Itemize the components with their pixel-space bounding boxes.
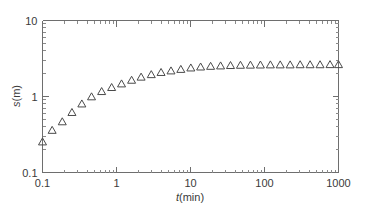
x-tick-label: 1000 — [326, 177, 350, 189]
x-tick-label: 10 — [184, 177, 196, 189]
chart-background — [0, 0, 365, 215]
x-axis-title: t(min) — [176, 191, 204, 203]
x-tick-label: 1 — [113, 177, 119, 189]
svg-text:t(min): t(min) — [176, 191, 204, 203]
log-log-scatter-chart: 0.11101001000 0.1110 t(min) s(m) — [0, 0, 365, 215]
svg-text:s(m): s(m) — [10, 85, 22, 107]
y-tick-label: 0.1 — [22, 167, 37, 179]
y-axis-title: s(m) — [10, 85, 22, 107]
x-tick-label: 100 — [255, 177, 273, 189]
y-tick-label: 1 — [31, 91, 37, 103]
figure-container: 0.11101001000 0.1110 t(min) s(m) — [0, 0, 365, 215]
y-tick-label: 10 — [25, 15, 37, 27]
